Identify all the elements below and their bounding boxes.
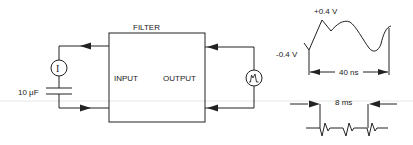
arrow-left-icon [369, 101, 380, 108]
input-top-wire [59, 46, 109, 60]
pulse-train-trace [306, 123, 388, 136]
pulse-glyph-icon [249, 74, 259, 82]
period-label-40ns: 40 ns [339, 68, 359, 77]
arrow-left-icon [310, 69, 320, 75]
waveform-max-label: +0.4 V [314, 7, 338, 16]
arrow-right-icon [80, 105, 91, 112]
waveform-top: +0.4 V -0.4 V 40 ns [276, 7, 391, 77]
waveform-trace [304, 20, 391, 51]
current-source-symbol: I [56, 63, 59, 74]
capacitor-label: 10 μF [18, 88, 39, 97]
arrow-left-icon [207, 44, 218, 51]
waveform-min-label: -0.4 V [276, 50, 298, 59]
arrow-left-icon [207, 105, 218, 112]
filter-test-diagram: FILTER INPUT OUTPUT I 10 μF +0.4 V -0.4 … [0, 0, 413, 145]
arrow-right-icon [309, 101, 320, 108]
output-top-wire [205, 47, 254, 70]
waveform-bottom: 8 ms [290, 98, 397, 136]
output-bottom-wire [205, 86, 254, 108]
period-label-8ms: 8 ms [335, 98, 352, 107]
filter-label: FILTER [133, 23, 160, 32]
input-label: INPUT [114, 74, 138, 83]
signal-generator-icon [246, 70, 262, 86]
arrow-right-icon [378, 69, 388, 75]
arrow-left-icon [80, 43, 91, 50]
output-label: OUTPUT [163, 74, 196, 83]
